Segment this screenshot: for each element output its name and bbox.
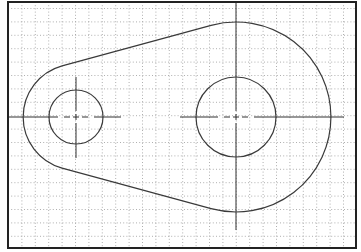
cad-drawing <box>0 0 361 252</box>
drawing-canvas <box>0 0 361 252</box>
background <box>0 0 361 252</box>
